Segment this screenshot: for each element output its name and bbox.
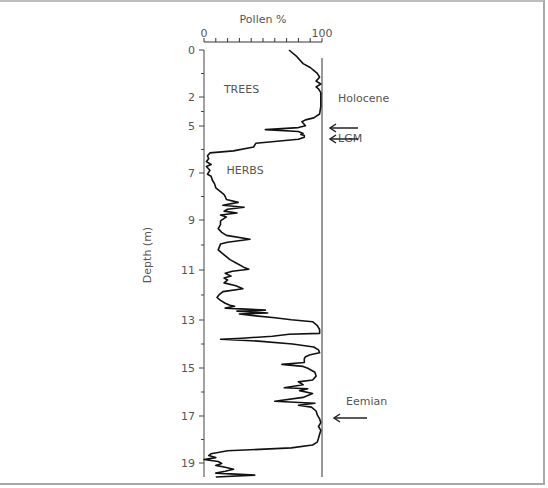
pollen-curve [204, 50, 321, 477]
pollen-diagram: Pollen % 0 100 025791113151719 Depth (m)… [0, 0, 548, 488]
y-tick-label: 5 [188, 120, 195, 133]
annotation-holocene: Holocene [338, 92, 390, 105]
y-tick-label: 13 [181, 314, 195, 327]
y-tick-label: 17 [181, 410, 195, 423]
annotation-eemian: Eemian [346, 395, 387, 408]
x-axis [204, 38, 322, 42]
region-labels: TREESHERBS [223, 83, 264, 178]
x-axis-title: Pollen % [240, 13, 287, 26]
y-tick-label: 9 [188, 214, 195, 227]
y-tick-labels: 025791113151719 [181, 44, 195, 470]
y-tick-label: 19 [181, 457, 195, 470]
y-tick-label: 0 [188, 44, 195, 57]
y-axis-title: Depth (m) [141, 227, 154, 283]
annotations: HoloceneLGMEemian [330, 92, 390, 422]
y-tick-label: 15 [181, 362, 195, 375]
y-axis [199, 50, 204, 477]
y-tick-label: 7 [188, 167, 195, 180]
y-tick-label: 11 [181, 264, 195, 277]
region-label-trees: TREES [223, 83, 259, 96]
y-tick-label: 2 [188, 91, 195, 104]
region-label-herbs: HERBS [226, 164, 263, 177]
